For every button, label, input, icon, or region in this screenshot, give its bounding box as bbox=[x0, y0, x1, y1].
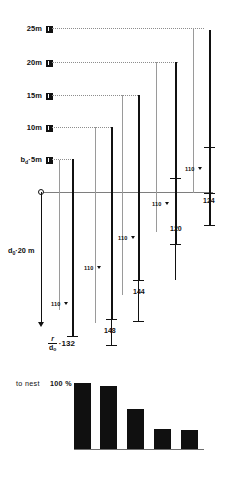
scientific-figure: 25m 20m 15m 10m bd·5m bbox=[0, 0, 230, 478]
histogram-bar-3 bbox=[127, 409, 144, 449]
histogram-bar-4 bbox=[154, 429, 171, 449]
histogram-plot: to nest 100 % bbox=[0, 0, 230, 478]
histogram-bar-1 bbox=[74, 383, 91, 449]
histogram-baseline bbox=[74, 449, 204, 450]
histogram-bar-2 bbox=[100, 386, 117, 449]
histogram-max-label: 100 % bbox=[50, 379, 72, 388]
histogram-caption: to nest bbox=[16, 379, 40, 388]
histogram-bar-5 bbox=[181, 430, 198, 449]
